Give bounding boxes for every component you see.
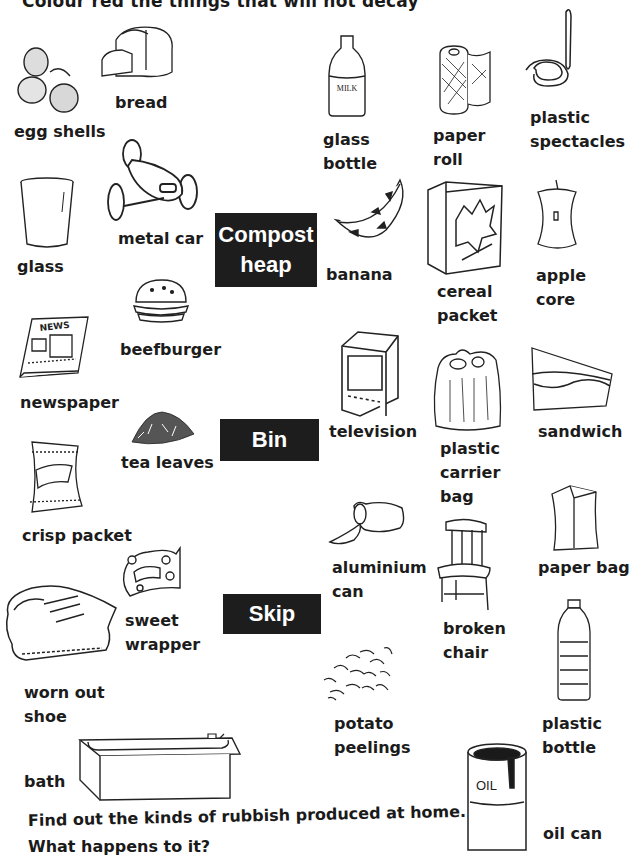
worn-out-shoe-icon xyxy=(4,584,118,662)
label-glass-bottle: glass bottle xyxy=(323,128,377,176)
label-line: bag xyxy=(440,485,500,509)
label-line: bread xyxy=(115,91,167,115)
sandwich-icon xyxy=(528,344,618,414)
label-paper-bag: paper bag xyxy=(538,556,630,580)
broken-chair-icon xyxy=(436,516,494,612)
potato-peelings-icon xyxy=(320,640,398,702)
bin-box-label: Bin xyxy=(220,427,319,453)
label-line: spectacles xyxy=(530,130,625,154)
label-aluminium-can: aluminium can xyxy=(332,556,427,604)
label-line: core xyxy=(536,288,586,312)
label-line: cereal xyxy=(437,280,497,304)
label-line: crisp packet xyxy=(22,524,132,548)
label-oil-can: oil can xyxy=(543,822,602,846)
label-egg-shells: egg shells xyxy=(14,120,106,144)
label-line: metal car xyxy=(118,227,203,251)
label-tea-leaves: tea leaves xyxy=(121,451,214,475)
egg-shells-icon xyxy=(14,42,84,114)
label-line: broken xyxy=(443,617,506,641)
footer-question: Find out the kinds of rubbish produced a… xyxy=(28,808,466,859)
label-line: wrapper xyxy=(125,633,200,657)
label-banana: banana xyxy=(326,263,393,287)
label-television: television xyxy=(329,420,417,444)
plastic-bottle-icon xyxy=(556,598,592,702)
label-line: plastic xyxy=(440,437,500,461)
label-line: can xyxy=(332,580,427,604)
milk-label: MILK xyxy=(337,84,358,93)
label-line: oil can xyxy=(543,822,602,846)
label-line: banana xyxy=(326,263,393,287)
label-line: plastic xyxy=(530,106,625,130)
label-line: sandwich xyxy=(538,420,622,444)
compost-heap-box: Compost heap xyxy=(215,213,317,287)
label-crisp-packet: crisp packet xyxy=(22,524,132,548)
label-apple-core: apple core xyxy=(536,264,586,312)
oil-can-icon: OIL xyxy=(466,742,528,852)
label-potato-peelings: potato peelings xyxy=(334,712,411,760)
cereal-packet-icon xyxy=(424,180,506,276)
label-line: bottle xyxy=(323,152,377,176)
label-bread: bread xyxy=(115,91,167,115)
footer-line-1: Find out the kinds of rubbish produced a… xyxy=(28,799,467,834)
beefburger-icon xyxy=(132,278,190,324)
crisp-packet-icon xyxy=(24,438,84,514)
label-plastic-spectacles: plastic spectacles xyxy=(530,106,625,154)
label-line: carrier xyxy=(440,461,500,485)
label-line: bottle xyxy=(542,736,602,760)
compost-box-line-2: heap xyxy=(215,250,317,280)
label-line: paper bag xyxy=(538,556,630,580)
label-line: worn out xyxy=(24,681,105,705)
label-line: chair xyxy=(443,641,506,665)
label-line: paper xyxy=(433,124,485,148)
label-line: tea leaves xyxy=(121,451,214,475)
bin-box: Bin xyxy=(220,419,319,461)
label-sweet-wrapper: sweet wrapper xyxy=(125,609,200,657)
label-line: apple xyxy=(536,264,586,288)
label-metal-car: metal car xyxy=(118,227,203,251)
sweet-wrapper-icon xyxy=(118,546,184,598)
label-broken-chair: broken chair xyxy=(443,617,506,665)
banana-icon xyxy=(334,178,408,248)
skip-box: Skip xyxy=(223,594,321,634)
tea-leaves-icon xyxy=(128,408,198,448)
label-line: packet xyxy=(437,304,497,328)
label-glass: glass xyxy=(17,255,64,279)
label-line: roll xyxy=(433,148,485,172)
label-line: glass xyxy=(323,128,377,152)
label-sandwich: sandwich xyxy=(538,420,622,444)
label-line: bath xyxy=(24,770,65,794)
plastic-carrier-bag-icon xyxy=(432,346,504,434)
metal-car-icon xyxy=(108,136,200,224)
bread-icon xyxy=(98,20,176,82)
label-line: plastic xyxy=(542,712,602,736)
glass-icon xyxy=(18,176,76,252)
label-bath: bath xyxy=(24,770,65,794)
label-beefburger: beefburger xyxy=(120,338,221,362)
skip-box-label: Skip xyxy=(223,601,321,627)
label-plastic-bottle: plastic bottle xyxy=(542,712,602,760)
bath-icon xyxy=(76,734,244,802)
footer-line-2: What happens to it? xyxy=(28,834,466,859)
label-line: aluminium xyxy=(332,556,427,580)
glass-bottle-icon: MILK xyxy=(328,34,366,118)
oil-label: OIL xyxy=(476,778,497,793)
label-line: glass xyxy=(17,255,64,279)
label-line: egg shells xyxy=(14,120,106,144)
paper-bag-icon xyxy=(548,484,600,550)
label-line: shoe xyxy=(24,705,105,729)
label-newspaper: newspaper xyxy=(20,391,119,415)
label-plastic-carrier-bag: plastic carrier bag xyxy=(440,437,500,509)
label-line: potato xyxy=(334,712,411,736)
newspaper-icon: NEWS xyxy=(18,315,92,379)
plastic-spectacles-icon xyxy=(524,6,584,88)
label-line: newspaper xyxy=(20,391,119,415)
paper-roll-icon xyxy=(438,44,494,116)
label-line: sweet xyxy=(125,609,200,633)
label-paper-roll: paper roll xyxy=(433,124,485,172)
compost-box-line-1: Compost xyxy=(215,220,317,250)
label-line: beefburger xyxy=(120,338,221,362)
label-worn-out-shoe: worn out shoe xyxy=(24,681,105,729)
worksheet-title: Colour red the things that will not deca… xyxy=(22,0,419,11)
television-icon xyxy=(340,330,402,418)
label-line: peelings xyxy=(334,736,411,760)
